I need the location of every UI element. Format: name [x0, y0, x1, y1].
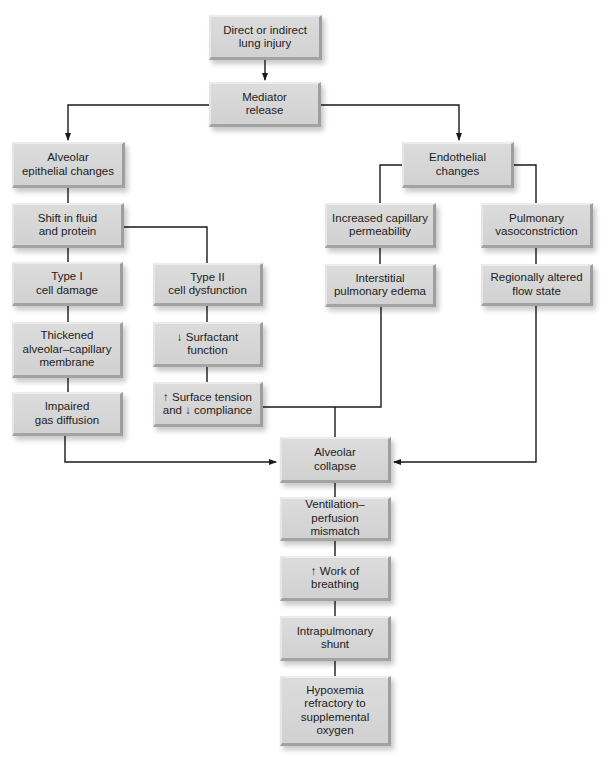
node-lung-injury: Direct or indirect lung injury [209, 15, 322, 60]
node-type2-cell-dysfunction: Type II cell dysfunction [153, 263, 263, 306]
edge-endothelial-capperm [380, 165, 402, 203]
edge-mediator-epithelial [68, 105, 210, 140]
node-pulmonary-vasoconstriction: Pulmonary vasoconstriction [481, 203, 593, 248]
node-shift-fluid-protein: Shift in fluid and protein [12, 203, 124, 248]
node-interstitial-pulmonary-edema: Interstitial pulmonary edema [325, 264, 436, 307]
node-mediator-release: Mediator release [209, 82, 321, 127]
flowchart-canvas: Direct or indirect lung injury Mediator … [0, 0, 611, 757]
node-hypoxemia: Hypoxemia refractory to supplemental oxy… [280, 676, 391, 746]
edge-mediator-endothelial [318, 105, 459, 140]
node-regionally-altered-flow-state: Regionally altered flow state [481, 264, 593, 306]
node-work-of-breathing: ↑ Work of breathing [280, 556, 391, 601]
edge-shift-type2 [124, 227, 207, 263]
edge-tension-collapse [262, 307, 381, 407]
node-increased-capillary-permeability: Increased capillary permeability [325, 203, 436, 248]
node-intrapulmonary-shunt: Intrapulmonary shunt [280, 616, 391, 661]
edge-impaired-collapse [65, 436, 276, 462]
node-surfactant-function: ↓ Surfactant function [153, 322, 263, 367]
node-endothelial-changes: Endothelial changes [402, 142, 514, 188]
node-thickened-membrane: Thickened alveolar–capillary membrane [12, 322, 123, 378]
cropped-caption-strip [0, 748, 611, 757]
node-type1-cell-damage: Type I cell damage [12, 262, 123, 306]
node-surface-tension-compliance: ↑ Surface tension and ↓ compliance [153, 382, 263, 427]
edge-flow-collapse [394, 306, 536, 462]
node-alveolar-collapse: Alveolar collapse [280, 437, 391, 483]
edge-endothelial-vaso [514, 165, 536, 203]
node-alveolar-epithelial-changes: Alveolar epithelial changes [12, 142, 125, 188]
node-impaired-gas-diffusion: Impaired gas diffusion [12, 392, 123, 436]
node-vq-mismatch: Ventilation– perfusion mismatch [280, 497, 391, 541]
